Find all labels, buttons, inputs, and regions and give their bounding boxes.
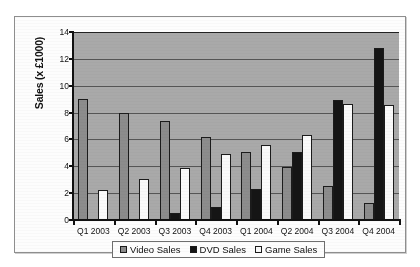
x-axis-tick-label: Q4 2004: [362, 226, 395, 236]
bar: [119, 113, 129, 220]
x-axis-tick-mark: [358, 219, 360, 225]
bar: [282, 167, 292, 220]
x-axis-tick-label: Q3 2003: [159, 226, 192, 236]
bar: [333, 100, 343, 220]
bar: [201, 137, 211, 220]
x-axis-tick-mark: [318, 219, 320, 225]
legend-swatch-icon: [255, 246, 262, 253]
x-axis-tick-label: Q1 2004: [240, 226, 273, 236]
bar: [374, 48, 384, 220]
bar: [241, 152, 251, 220]
chart-legend: Video SalesDVD SalesGame Sales: [112, 241, 325, 258]
bar-group: [155, 32, 196, 220]
bar-group: [73, 32, 114, 220]
bar-group: [277, 32, 318, 220]
x-axis-tick-mark: [195, 219, 197, 225]
legend-label: DVD Sales: [200, 244, 246, 255]
plot-area: 02468101214: [73, 32, 399, 220]
bar: [323, 186, 333, 220]
bar: [98, 190, 108, 220]
bar-group: [318, 32, 359, 220]
y-axis-tick-label: 14: [60, 27, 69, 37]
bar: [292, 152, 302, 220]
bar-group: [114, 32, 155, 220]
x-axis-tick-mark: [155, 219, 157, 225]
x-axis-tick-mark: [277, 219, 279, 225]
bar: [384, 105, 394, 220]
bar: [221, 154, 231, 220]
chart-figure: Sales (x £1000) 02468101214 Video SalesD…: [14, 16, 406, 253]
y-axis-title: Sales (x £1000): [33, 3, 45, 143]
bar: [364, 203, 374, 220]
x-axis-tick-label: Q4 2003: [199, 226, 232, 236]
bar: [78, 99, 88, 220]
bar: [180, 168, 190, 220]
x-axis-tick-mark: [236, 219, 238, 225]
x-axis-tick-label: Q3 2004: [322, 226, 355, 236]
legend-label: Game Sales: [265, 244, 317, 255]
legend-item[interactable]: Game Sales: [255, 244, 317, 255]
x-axis-tick-label: Q1 2003: [77, 226, 110, 236]
bar-group: [358, 32, 399, 220]
y-axis-tick-label: 12: [60, 54, 69, 64]
x-axis-tick-mark: [399, 219, 401, 225]
legend-item[interactable]: Video Sales: [120, 244, 181, 255]
bar-group: [236, 32, 277, 220]
x-axis-tick-label: Q2 2004: [281, 226, 314, 236]
y-axis-tick-label: 10: [60, 81, 69, 91]
legend-item[interactable]: DVD Sales: [190, 244, 246, 255]
x-axis-tick-mark: [114, 219, 116, 225]
bar: [261, 145, 271, 220]
x-axis-tick-label: Q2 2003: [118, 226, 151, 236]
legend-label: Video Sales: [130, 244, 181, 255]
bar: [139, 179, 149, 220]
bar-group: [195, 32, 236, 220]
legend-swatch-icon: [120, 246, 127, 253]
bar: [302, 135, 312, 220]
x-axis-tick-mark: [73, 219, 75, 225]
legend-swatch-icon: [190, 246, 197, 253]
bar: [160, 121, 170, 220]
y-axis-line: [72, 31, 74, 221]
bar: [251, 189, 261, 220]
bar: [343, 104, 353, 220]
